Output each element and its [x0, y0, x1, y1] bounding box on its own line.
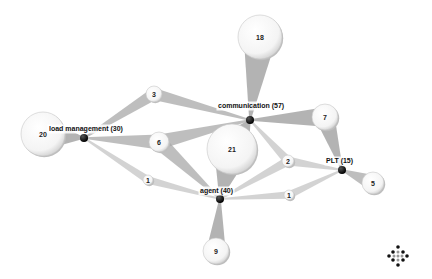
brand-logo-icon	[386, 244, 410, 268]
bubble-count: 5	[371, 180, 375, 187]
bubble-9[interactable]: 9	[203, 238, 230, 265]
bubble-20[interactable]: 20	[21, 112, 66, 157]
relationship-diagram: 18209572136211 communication (57)load ma…	[0, 0, 432, 279]
bubble-count: 9	[214, 248, 218, 255]
hub-node-icon[interactable]	[246, 116, 254, 124]
bubble-count: 21	[228, 146, 236, 153]
edge-plt	[287, 169, 342, 198]
bubble-count: 20	[39, 131, 47, 138]
bubble-count: 18	[256, 34, 264, 41]
hub-node-icon[interactable]	[80, 134, 88, 142]
hub-label: PLT (15)	[326, 157, 353, 165]
hub-label: load management (30)	[49, 125, 123, 133]
bubble-18[interactable]: 18	[238, 15, 283, 60]
edge-load_management	[84, 135, 159, 150]
bubble-count: 6	[157, 139, 161, 146]
hub-label: communication (57)	[218, 102, 284, 110]
bubble-21[interactable]: 21	[207, 124, 258, 175]
hub-node-icon[interactable]	[338, 166, 346, 174]
bubble-1[interactable]: 1	[143, 175, 154, 186]
hub-label: agent (40)	[200, 187, 233, 195]
bubble-7[interactable]: 7	[312, 104, 339, 131]
bubble-count: 1	[287, 192, 291, 199]
hub-agent[interactable]: agent (40)	[199, 187, 235, 204]
bubble-count: 2	[286, 158, 290, 165]
bubble-count: 3	[152, 91, 156, 98]
hub-node-icon[interactable]	[216, 195, 224, 203]
bubble-count: 1	[146, 177, 150, 184]
bubble-5[interactable]: 5	[362, 172, 385, 195]
bubble-count: 7	[323, 114, 327, 121]
